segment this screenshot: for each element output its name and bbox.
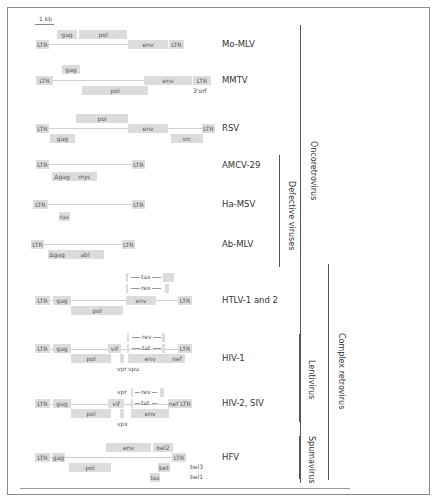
gene-ltr: LTR: [33, 200, 48, 209]
virus-name: AMCV-29: [222, 160, 260, 170]
gene-pol: pol: [71, 306, 123, 315]
gene-src: src: [171, 134, 203, 143]
gene-env: env: [131, 409, 169, 418]
gene-ltr: LTR: [35, 453, 50, 462]
gene-gag: gag: [53, 296, 71, 305]
gene-ltr: LTR: [169, 40, 184, 49]
oncoretrovirus-bracket: [300, 25, 301, 483]
tax-exon: [163, 273, 174, 282]
gene-ltr: LTR: [178, 344, 192, 353]
gene-ltr: LTR: [132, 200, 145, 209]
gene-pol: pol: [76, 114, 128, 123]
defective-label: Defective viruses: [287, 181, 296, 250]
gene-bel1: bel1: [190, 473, 203, 481]
gene-abl: abl: [66, 250, 104, 259]
oncoretrovirus-label: Oncoretrovirus: [309, 141, 318, 200]
gene-vpx: vpx: [117, 420, 128, 428]
gene-ltr: LTR: [202, 124, 215, 133]
gene-delta-gag: Δgag: [48, 250, 66, 259]
virus-name: Ha-MSV: [222, 199, 255, 209]
gene-ltr: LTR: [172, 453, 186, 462]
spumavirus-bracket: [299, 436, 300, 479]
spumavirus-label: Spumavirus: [307, 436, 316, 483]
gene-nef: nef: [169, 354, 185, 363]
virus-name: RSV: [222, 123, 239, 133]
gene-tat: tat: [142, 344, 150, 352]
gene-rev: rev: [141, 388, 151, 396]
scale-label: 1 kb: [39, 15, 52, 23]
gene-vif: vif: [108, 344, 121, 353]
bottom-rule: [20, 488, 350, 489]
gene-pol: pol: [82, 86, 148, 95]
gene-gag: gag: [57, 30, 77, 39]
virus-name: MMTV: [222, 75, 248, 85]
gene-env: env: [106, 443, 151, 452]
virus-name: Mo-MLV: [222, 39, 255, 49]
defective-bracket: [279, 155, 280, 267]
gene-vpr: vpr: [117, 388, 127, 396]
gene-gag: gag: [62, 65, 80, 74]
gene-gag: gag: [53, 399, 71, 408]
gene-ltr: LTR: [178, 296, 192, 305]
gene-delta-gag: Δgag: [52, 172, 72, 181]
gene-env: env: [128, 40, 168, 49]
gene-gag: gag: [50, 134, 75, 143]
gene-bel2: bel2: [153, 443, 173, 452]
virus-name: HIV-2, SIV: [222, 398, 264, 408]
scale-bar: [35, 24, 54, 25]
gene-ltr: LTR: [35, 296, 50, 305]
gene-rev: rev: [142, 333, 152, 341]
gene-ltr: LTR: [35, 344, 50, 353]
gene-ras: ras: [59, 212, 70, 221]
gene-pol: pol: [79, 30, 127, 39]
gene-ltr: LTR: [122, 240, 135, 249]
gene-nef: nef: [168, 399, 179, 408]
gene-3orf: 3'orf: [193, 87, 207, 95]
gene-tax: tax: [141, 273, 151, 281]
gene-ltr: LTR: [179, 399, 192, 408]
gene-bel3: bel3: [190, 463, 203, 471]
virus-name: Ab-MLV: [222, 239, 253, 249]
gene-gag: gag: [53, 344, 71, 353]
complex-bracket: [328, 264, 329, 480]
virus-name: HTLV-1 and 2: [222, 295, 278, 305]
gene-ltr: LTR: [193, 76, 211, 85]
gene-vpu: vpu: [128, 365, 139, 373]
lentivirus-label: Lentivirus: [307, 360, 316, 399]
complex-label: Complex retrovirus: [337, 333, 346, 409]
virus-name: HIV-1: [222, 353, 245, 363]
gene-gag: gag: [52, 453, 65, 462]
gene-bet: bet: [158, 463, 170, 472]
gene-pol: pol: [71, 354, 111, 363]
gene-tas: tas: [150, 473, 160, 482]
gene-ltr: LTR: [36, 160, 49, 169]
gene-env: env: [126, 296, 156, 305]
gene-ltr: LTR: [132, 160, 145, 169]
gene-env: env: [144, 76, 192, 85]
gene-myc: myc: [72, 172, 97, 181]
gene-vif: vif: [108, 399, 124, 408]
gene-rex: rex: [141, 284, 150, 292]
gene-vpr: vpr: [117, 365, 127, 373]
gene-ltr: LTR: [36, 76, 53, 85]
gene-pol: pol: [69, 463, 111, 472]
virus-name: HFV: [222, 452, 239, 462]
gene-ltr: LTR: [36, 124, 49, 133]
gene-ltr: LTR: [31, 240, 44, 249]
gene-ltr: LTR: [35, 399, 50, 408]
gene-tat: tat: [141, 399, 149, 407]
lentivirus-bracket: [299, 334, 300, 422]
gene-env: env: [131, 354, 169, 363]
gene-pol: pol: [71, 409, 111, 418]
gene-env: env: [128, 124, 168, 133]
gene-ltr: LTR: [36, 40, 49, 49]
